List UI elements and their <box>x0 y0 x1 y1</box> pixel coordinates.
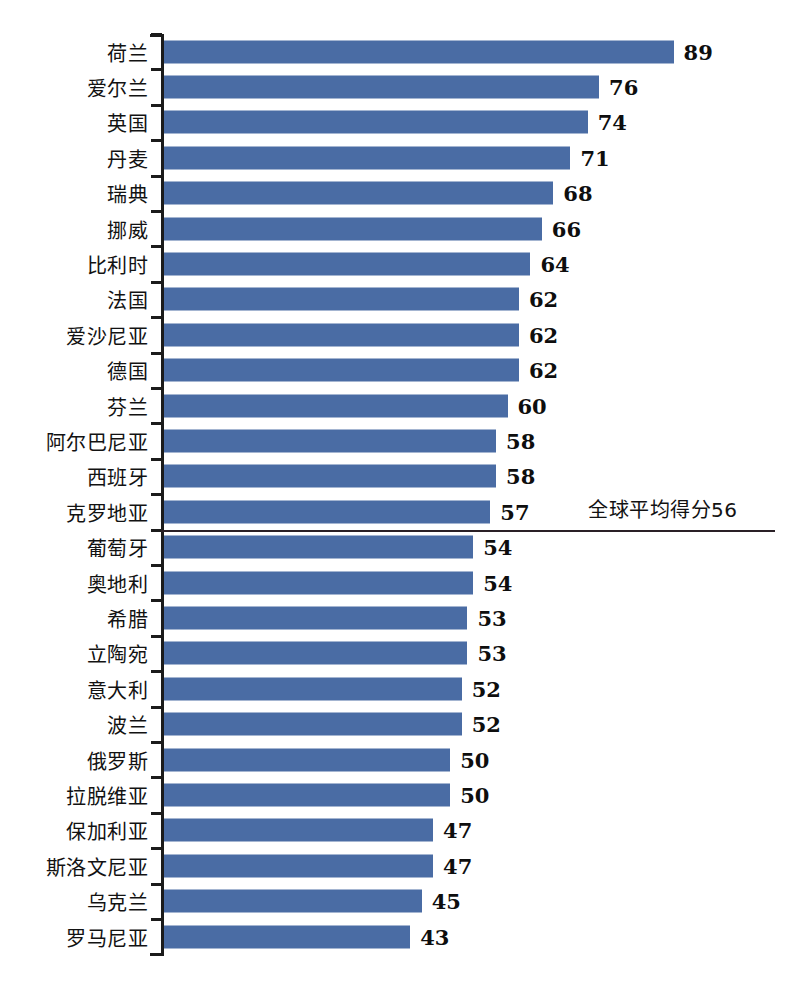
bar-row: 丹麦71 <box>0 140 788 175</box>
bar-value-label: 43 <box>420 924 449 949</box>
category-label: 比利时 <box>87 250 149 279</box>
bar-row: 芬兰60 <box>0 388 788 423</box>
bar-row: 保加利亚47 <box>0 813 788 848</box>
category-label: 斯洛文尼亚 <box>46 851 149 880</box>
category-label: 西班牙 <box>87 462 149 491</box>
category-label: 爱尔兰 <box>87 73 149 102</box>
bar-chart: 荷兰89爱尔兰76英国74丹麦71瑞典68挪威66比利时64法国62爱沙尼亚62… <box>0 0 788 998</box>
bar-value-label: 62 <box>529 287 558 312</box>
bar <box>164 890 422 913</box>
bar-value-label: 50 <box>460 747 489 772</box>
bar-row: 立陶宛53 <box>0 636 788 671</box>
bar-value-label: 52 <box>472 676 501 701</box>
bar-row: 乌克兰45 <box>0 884 788 919</box>
bar <box>164 111 588 134</box>
bar-row: 奥地利54 <box>0 565 788 600</box>
bar-row: 爱尔兰76 <box>0 69 788 104</box>
category-label: 英国 <box>107 108 148 137</box>
bar <box>164 217 542 240</box>
bar-value-label: 50 <box>460 783 489 808</box>
bar <box>164 253 530 276</box>
bar <box>164 784 450 807</box>
category-label: 德国 <box>107 356 148 385</box>
bar <box>164 607 467 630</box>
bar-value-label: 71 <box>580 145 609 170</box>
bar-row: 罗马尼亚43 <box>0 919 788 954</box>
bar-row: 俄罗斯50 <box>0 742 788 777</box>
category-label: 奥地利 <box>87 568 149 597</box>
category-label: 克罗地亚 <box>66 497 148 526</box>
bar <box>164 925 410 948</box>
bar-row: 希腊53 <box>0 600 788 635</box>
bar-value-label: 58 <box>506 464 535 489</box>
category-label: 葡萄牙 <box>87 533 149 562</box>
category-label: 意大利 <box>87 674 149 703</box>
bar <box>164 677 462 700</box>
bar-row: 德国62 <box>0 353 788 388</box>
bar-value-label: 62 <box>529 358 558 383</box>
bar-value-label: 54 <box>483 535 512 560</box>
category-label: 乌克兰 <box>87 887 149 916</box>
bar <box>164 642 467 665</box>
bar <box>164 536 473 559</box>
category-label: 希腊 <box>107 604 148 633</box>
plot-area: 荷兰89爱尔兰76英国74丹麦71瑞典68挪威66比利时64法国62爱沙尼亚62… <box>0 0 788 998</box>
category-label: 保加利亚 <box>66 816 148 845</box>
bar-row: 法国62 <box>0 282 788 317</box>
bar-value-label: 57 <box>500 499 529 524</box>
global-average-annotation: 全球平均得分56 <box>588 494 737 523</box>
bar <box>164 323 519 346</box>
bar-row: 西班牙58 <box>0 459 788 494</box>
bar-row: 荷兰89 <box>0 34 788 69</box>
bar-value-label: 64 <box>540 252 569 277</box>
category-label: 荷兰 <box>107 37 148 66</box>
category-label: 法国 <box>107 285 148 314</box>
bar-row: 意大利52 <box>0 671 788 706</box>
bar-row: 葡萄牙54 <box>0 530 788 565</box>
bar-value-label: 60 <box>518 393 547 418</box>
bar <box>164 854 433 877</box>
category-label: 爱沙尼亚 <box>66 320 148 349</box>
category-label: 立陶宛 <box>87 639 149 668</box>
bar-row: 爱沙尼亚62 <box>0 317 788 352</box>
bar-row: 比利时64 <box>0 246 788 281</box>
bar-row: 英国74 <box>0 105 788 140</box>
bar <box>164 40 674 63</box>
bar <box>164 182 553 205</box>
bar <box>164 500 490 523</box>
bar <box>164 146 570 169</box>
category-label: 俄罗斯 <box>87 745 149 774</box>
bar-value-label: 66 <box>552 216 581 241</box>
category-label: 拉脱维亚 <box>66 781 148 810</box>
bar-value-label: 54 <box>483 570 512 595</box>
category-label: 波兰 <box>107 710 148 739</box>
bar-value-label: 58 <box>506 429 535 454</box>
global-average-divider-line <box>161 530 775 532</box>
bar <box>164 713 462 736</box>
bar <box>164 465 496 488</box>
category-label: 丹麦 <box>107 143 148 172</box>
category-label: 阿尔巴尼亚 <box>46 427 149 456</box>
bar-row: 斯洛文尼亚47 <box>0 848 788 883</box>
bar-value-label: 52 <box>472 712 501 737</box>
bar-row: 瑞典68 <box>0 176 788 211</box>
bar <box>164 359 519 382</box>
bar-value-label: 89 <box>684 39 713 64</box>
bar-value-label: 53 <box>477 641 506 666</box>
bar-value-label: 53 <box>477 606 506 631</box>
bar <box>164 748 450 771</box>
bar-value-label: 74 <box>598 110 627 135</box>
bar <box>164 430 496 453</box>
bar-value-label: 76 <box>609 75 638 100</box>
category-label: 瑞典 <box>107 179 148 208</box>
bar-value-label: 47 <box>443 818 472 843</box>
category-label: 芬兰 <box>107 391 148 420</box>
bar <box>164 76 599 99</box>
bar-row: 波兰52 <box>0 707 788 742</box>
category-label: 罗马尼亚 <box>66 922 148 951</box>
bar-value-label: 62 <box>529 322 558 347</box>
bar-row: 阿尔巴尼亚58 <box>0 423 788 458</box>
bar-value-label: 68 <box>563 181 592 206</box>
bar <box>164 288 519 311</box>
bar-value-label: 45 <box>432 889 461 914</box>
